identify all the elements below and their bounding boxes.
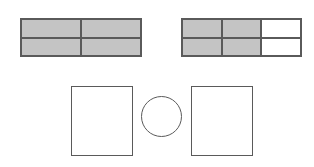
right-fraction-grid: [181, 18, 302, 57]
grid-cell-shaded: [21, 38, 81, 57]
grid-cell-shaded: [81, 38, 141, 57]
grid-cell-shaded: [182, 38, 222, 57]
right-blank-rectangle: [191, 86, 253, 156]
comparison-circle: [141, 96, 182, 137]
grid-cell-shaded: [222, 19, 262, 38]
grid-cell-unshaded: [261, 19, 301, 38]
grid-cell-shaded: [21, 19, 81, 38]
left-blank-rectangle: [71, 86, 133, 156]
grid-cell-shaded: [81, 19, 141, 38]
grid-cell-unshaded: [261, 38, 301, 57]
grid-cell-shaded: [222, 38, 262, 57]
left-fraction-grid: [20, 18, 142, 57]
grid-cell-shaded: [182, 19, 222, 38]
